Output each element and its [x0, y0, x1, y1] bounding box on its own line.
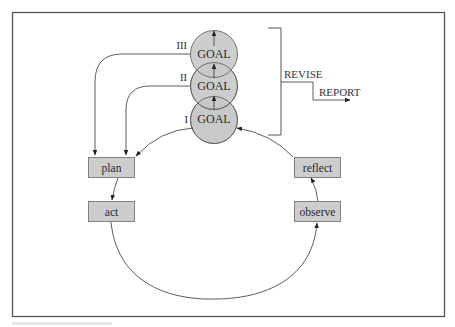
edge-goal3-plan: [95, 54, 190, 155]
step-observe-label: observe: [300, 206, 336, 218]
step-reflect-label: reflect: [303, 162, 333, 174]
step-observe: observe: [295, 202, 341, 222]
edge-reflect-goal1: [237, 128, 293, 157]
numeral-i: I: [185, 114, 189, 125]
caption-placeholder-bar: [12, 322, 112, 325]
revise-label: REVISE: [284, 68, 323, 80]
goal-label-2: GOAL: [197, 79, 230, 93]
action-research-diagram: GOAL GOAL GOAL III II I plan act reflect…: [0, 0, 455, 327]
step-act-label: act: [105, 206, 119, 218]
step-reflect: reflect: [295, 158, 341, 178]
numeral-ii: II: [180, 72, 187, 83]
step-plan: plan: [89, 158, 135, 178]
numeral-iii: III: [177, 40, 188, 51]
edge-plan-act: [112, 178, 118, 200]
edge-goal1-plan: [136, 128, 193, 156]
goal-label-3: GOAL: [197, 47, 230, 61]
goal-label-1: GOAL: [197, 112, 230, 126]
edge-goal2-plan: [126, 86, 190, 155]
edge-observe-reflect: [311, 178, 318, 202]
report-label: REPORT: [319, 86, 361, 98]
revise-bracket: [268, 28, 281, 135]
step-act: act: [89, 202, 135, 222]
edge-act-observe: [111, 222, 317, 299]
step-plan-label: plan: [102, 162, 122, 175]
goal-stack: GOAL GOAL GOAL: [191, 31, 238, 144]
